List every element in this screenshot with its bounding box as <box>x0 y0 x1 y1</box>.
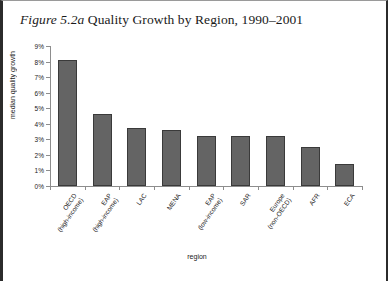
y-tick <box>46 155 50 156</box>
plot-area: 0%1%2%3%4%5%6%7%8%9% OECD(high-income)EA… <box>50 46 362 186</box>
y-tick-label: 6% <box>35 89 44 96</box>
bar <box>162 130 181 186</box>
y-tick <box>46 139 50 140</box>
bar <box>197 136 216 186</box>
bar <box>266 136 285 186</box>
y-tick-label: 0% <box>35 183 44 190</box>
x-tick <box>50 186 51 190</box>
y-axis-line <box>50 46 51 186</box>
y-axis-title: median quality growth <box>9 51 19 119</box>
y-tick-label: 3% <box>35 136 44 143</box>
figure-title-text: Quality Growth by Region, 1990–2001 <box>84 12 303 27</box>
x-axis-title: region <box>3 253 388 260</box>
y-tick-label: 9% <box>35 43 44 50</box>
bar <box>335 164 354 186</box>
y-tick-label: 5% <box>35 105 44 112</box>
y-tick-label: 2% <box>35 151 44 158</box>
figure-panel: Figure 5.2a Quality Growth by Region, 19… <box>0 0 388 281</box>
y-tick <box>46 108 50 109</box>
x-tick <box>189 186 190 190</box>
y-tick-label: 8% <box>35 58 44 65</box>
clipped-caption <box>3 275 388 281</box>
figure-title: Figure 5.2a Quality Growth by Region, 19… <box>20 12 303 28</box>
x-axis-line <box>50 186 362 187</box>
y-tick <box>46 62 50 63</box>
y-tick <box>46 77 50 78</box>
y-tick-label: 1% <box>35 167 44 174</box>
figure-number: Figure 5.2a <box>20 12 84 27</box>
y-tick-label: 7% <box>35 74 44 81</box>
y-tick <box>46 124 50 125</box>
y-tick-label: 4% <box>35 120 44 127</box>
y-tick <box>46 170 50 171</box>
y-tick <box>46 46 50 47</box>
y-tick <box>46 93 50 94</box>
bar <box>58 60 77 186</box>
